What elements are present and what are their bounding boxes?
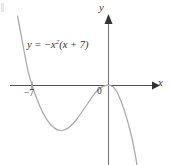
- equation-lhs: y = −x: [27, 39, 56, 50]
- origin-label: 0: [97, 87, 102, 97]
- plot-area: [0, 0, 172, 165]
- x-tick-label-neg7: −7: [24, 89, 34, 99]
- y-axis-arrowhead: [105, 14, 113, 24]
- equation-rhs: (x + 7): [59, 39, 88, 50]
- equation-annotation: y = −x2(x + 7): [27, 40, 89, 51]
- y-axis-label: y: [99, 2, 104, 13]
- x-axis-label: x: [158, 77, 163, 88]
- graph-figure: y x y = −x2(x + 7) −7 0: [0, 0, 172, 165]
